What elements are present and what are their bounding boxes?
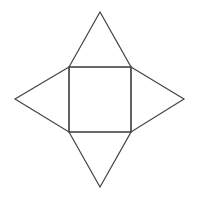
base-square	[69, 67, 131, 132]
triangle-face-bottom	[69, 132, 131, 187]
triangle-face-right	[131, 67, 184, 132]
triangle-face-top	[69, 12, 131, 67]
pyramid-net-svg	[0, 0, 198, 199]
pyramid-net-diagram	[0, 0, 198, 199]
triangle-face-left	[15, 67, 69, 132]
